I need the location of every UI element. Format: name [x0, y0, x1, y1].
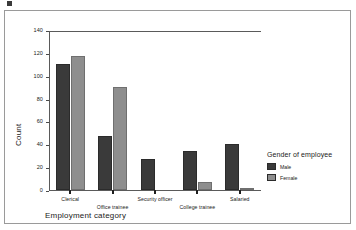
bar-male-college-trainee: [183, 151, 197, 190]
plot-area: 020406080100120140: [49, 31, 261, 191]
legend-title: Gender of employee: [267, 151, 353, 158]
x-tick-mark: [239, 190, 241, 194]
y-tick-label: 60: [37, 118, 43, 124]
y-axis-title: Count: [14, 124, 23, 146]
legend: Gender of employee MaleFemale: [267, 151, 353, 185]
plot-top-line: [49, 31, 261, 32]
y-tick-mark: [46, 54, 49, 55]
y-tick-mark: [46, 31, 49, 32]
x-tick-mark: [69, 190, 71, 194]
y-tick-mark: [46, 145, 49, 146]
bar-female-clerical: [71, 56, 85, 190]
y-tick-label: 100: [34, 73, 43, 79]
y-tick-label: 0: [40, 187, 43, 193]
y-tick-mark: [46, 100, 49, 101]
x-label-college-trainee: College trainee: [180, 204, 216, 210]
bar-male-clerical: [56, 64, 70, 190]
x-label-clerical: Clerical: [61, 196, 79, 202]
y-tick-mark: [46, 191, 49, 192]
bar-female-salaried: [240, 188, 254, 190]
chart-figure: 020406080100120140 ClericalOffice traine…: [0, 0, 356, 230]
x-tick-mark: [112, 190, 114, 194]
y-tick-mark: [46, 168, 49, 169]
corner-artifact-mark: [7, 1, 12, 6]
y-axis-line: [49, 31, 50, 191]
bar-female-office-trainee: [113, 87, 127, 190]
x-tick-mark: [196, 190, 198, 194]
y-tick-label: 120: [34, 50, 43, 56]
bar-male-security-officer: [141, 159, 155, 190]
x-label-office-trainee: Office trainee: [97, 204, 128, 210]
bar-female-college-trainee: [198, 182, 212, 190]
x-label-salaried: Salaried: [230, 196, 249, 202]
legend-entries: MaleFemale: [267, 163, 353, 181]
figure-border: 020406080100120140 ClericalOffice traine…: [4, 10, 351, 224]
legend-item: Male: [267, 163, 353, 170]
x-axis-title: Employment category: [45, 211, 126, 220]
y-tick-label: 40: [37, 141, 43, 147]
x-tick-mark: [154, 190, 156, 194]
legend-label: Male: [280, 164, 291, 170]
bar-male-salaried: [225, 144, 239, 190]
bar-male-office-trainee: [98, 136, 112, 190]
y-tick-label: 140: [34, 27, 43, 33]
legend-swatch: [267, 174, 276, 181]
legend-swatch: [267, 163, 276, 170]
y-tick-label: 20: [37, 164, 43, 170]
legend-item: Female: [267, 174, 353, 181]
legend-label: Female: [280, 175, 297, 181]
x-label-security-officer: Security officer: [137, 196, 172, 202]
y-tick-mark: [46, 122, 49, 123]
y-tick-label: 80: [37, 96, 43, 102]
y-tick-mark: [46, 77, 49, 78]
